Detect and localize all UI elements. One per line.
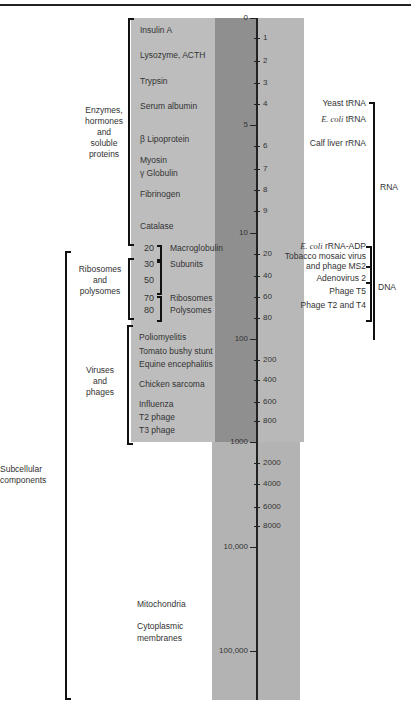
group-label-line: and: [75, 275, 125, 286]
protein-label: Serum albumin: [140, 101, 197, 111]
nucleic-acid-label: Phage T5: [329, 286, 366, 296]
sedimentation-number: 50: [144, 275, 154, 285]
nucleic-acid-label: Calf liver rRNA: [310, 138, 366, 148]
tick-mark: [254, 318, 260, 319]
tick-label: 8000: [263, 521, 281, 530]
tick-label: 100: [235, 334, 248, 343]
tick-label: 1: [263, 33, 267, 42]
tick-label: 10: [239, 228, 248, 237]
ribosome-label: Subunits: [170, 259, 203, 269]
tick-mark: [254, 507, 260, 508]
tick-mark: [254, 380, 260, 381]
tick-label: 2000: [263, 458, 281, 467]
group-label-line: Enzymes,: [84, 105, 124, 116]
sedimentation-number: 30: [144, 259, 154, 269]
tick-label: 20: [263, 249, 272, 258]
ribosomes-bracket: [128, 258, 134, 320]
protein-label: Insulin A: [140, 25, 172, 35]
tick-mark: [254, 146, 260, 147]
tick-label: 80: [263, 313, 272, 322]
tick-label: 6: [263, 141, 267, 150]
rna-label: RNA: [380, 182, 398, 192]
protein-label: β Lipoprotein: [140, 134, 189, 144]
group-label-line: polysomes: [75, 286, 125, 297]
tick-label: 60: [263, 292, 272, 301]
tick-label: 40: [263, 271, 272, 280]
dna-label: DNA: [378, 282, 396, 292]
group-ribosomes: Ribosomesandpolysomes: [75, 264, 125, 297]
tick-label: 3: [263, 78, 267, 87]
virus-label: T2 phage: [139, 412, 175, 422]
tick-mark: [254, 421, 260, 422]
tick-label: 7: [263, 164, 267, 173]
tick-label: 0: [244, 13, 248, 22]
tick-mark: [254, 104, 260, 105]
tick-label: 800: [263, 416, 276, 425]
nucleic-acid-label: E. coli tRNA: [321, 114, 366, 124]
tick-label: 2: [263, 56, 267, 65]
tick-label: 600: [263, 397, 276, 406]
tick-mark: [250, 547, 258, 548]
virus-label: Chicken sarcoma: [139, 379, 205, 389]
scale-axis: [256, 18, 258, 700]
tick-mark: [254, 254, 260, 255]
tick-mark: [254, 526, 260, 527]
tick-mark: [250, 651, 258, 652]
group-label-line: and: [80, 376, 120, 387]
tick-label: 6000: [263, 502, 281, 511]
enzymes-bracket: [128, 18, 134, 246]
protein-label: Lysozyme, ACTH: [140, 50, 205, 60]
tick-mark: [254, 190, 260, 191]
group-enzymes: Enzymes,hormonesandsolubleproteins: [84, 105, 124, 160]
tick-mark: [254, 297, 260, 298]
nucleic-acid-label: Yeast tRNA: [322, 98, 366, 108]
group-label-line: components: [0, 475, 55, 486]
subcellular-bracket: [65, 251, 71, 700]
tick-mark: [254, 169, 260, 170]
ribosome-label: Macroglobulin: [170, 243, 223, 253]
group-label-line: phages: [80, 387, 120, 398]
group-label-line: proteins: [84, 149, 124, 160]
group-viruses: Virusesandphages: [80, 365, 120, 398]
group-subcellular: Subcellularcomponents: [0, 464, 55, 486]
virus-label: Equine encephalitis: [139, 359, 213, 369]
virus-label: T3 phage: [139, 425, 175, 435]
tick-label: 8: [263, 185, 267, 194]
tick-mark: [250, 125, 258, 126]
tick-label: 4000: [263, 479, 281, 488]
subcellular-label: membranes: [137, 633, 182, 643]
group-label-line: and: [84, 127, 124, 138]
tick-mark: [254, 484, 260, 485]
tick-label: 200: [263, 355, 276, 364]
tick-mark: [254, 83, 260, 84]
tick-mark: [250, 442, 258, 443]
tick-mark: [254, 463, 260, 464]
tick-mark: [254, 38, 260, 39]
tick-mark: [250, 233, 258, 234]
tick-label: 5: [244, 120, 248, 129]
tick-mark: [254, 360, 260, 361]
nucleic-acid-label: E. coli rRNA-ADP: [300, 241, 366, 251]
tick-label: 9: [263, 206, 267, 215]
ribosome-label: Ribosomes: [170, 293, 213, 303]
tick-mark: [250, 339, 258, 340]
nucleic-acid-label: Phage T2 and T4: [301, 300, 366, 310]
virus-label: Influenza: [139, 399, 174, 409]
protein-label: γ Globulin: [140, 168, 178, 178]
protein-label: Trypsin: [140, 76, 168, 86]
sedimentation-number: 80: [144, 305, 154, 315]
protein-label: Fibrinogen: [140, 189, 180, 199]
virus-label: Tomato bushy stunt: [139, 346, 213, 356]
virus-label: Poliomyelitis: [139, 332, 186, 342]
nucleic-acid-label: Tobacco mosaic virus: [285, 251, 366, 261]
sedimentation-number: 20: [144, 243, 154, 253]
subcellular-label: Cytoplasmic: [137, 621, 183, 631]
ribosome-label: Polysomes: [170, 305, 212, 315]
top-rule: [0, 4, 411, 6]
brace-30-50: [157, 261, 162, 295]
nucleic-acid-label: Adenovirus 2: [316, 273, 366, 283]
tick-label: 1000: [230, 437, 248, 446]
tick-mark: [250, 18, 258, 19]
group-label-line: Subcellular: [0, 464, 55, 475]
protein-label: Catalase: [140, 221, 174, 231]
